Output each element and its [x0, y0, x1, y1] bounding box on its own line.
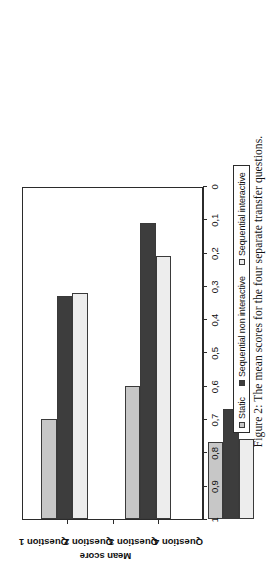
legend-label-static: Static: [237, 397, 247, 419]
y-axis-tick-label: 0,5: [209, 339, 220, 369]
plot-frame: [22, 187, 203, 520]
y-axis-tick-label: 0,6: [209, 372, 220, 402]
y-axis-tick-label: 0,1: [209, 205, 220, 235]
category-label-4: Question 4: [139, 537, 219, 548]
category-tick: [67, 520, 68, 524]
y-axis-tick: [203, 319, 207, 320]
legend-swatch-static: [239, 422, 245, 428]
legend-label-sequential-interactive: Sequential interactive: [237, 172, 247, 256]
bar-2-static: [125, 386, 141, 519]
y-axis-tick: [203, 452, 207, 453]
plot-area: [23, 188, 202, 519]
y-axis-tick-label: 0,8: [209, 438, 220, 468]
y-axis-tick: [203, 253, 207, 254]
category-tick: [158, 520, 159, 524]
y-axis-tick: [203, 419, 207, 420]
legend-swatch-sequential-non-interactive: [239, 380, 245, 386]
bar-2-sequential-non-interactive: [140, 223, 156, 519]
y-axis-tick-label: 0: [209, 172, 220, 202]
y-axis-tick: [203, 186, 207, 187]
legend-item-sequential-non-interactive: Sequential non interactive: [237, 276, 247, 386]
chart-legend: Static Sequential non interactive Sequen…: [233, 165, 250, 433]
legend-item-sequential-interactive: Sequential interactive: [237, 172, 247, 265]
y-axis-tick-label: 0,7: [209, 405, 220, 435]
bar-1-static: [41, 419, 57, 519]
y-axis-tick: [203, 353, 207, 354]
y-axis-tick: [203, 486, 207, 487]
category-tick: [113, 520, 114, 524]
y-axis-tick: [203, 386, 207, 387]
legend-label-sequential-non-interactive: Sequential non interactive: [237, 276, 247, 377]
bar-1-sequential-interactive: [72, 293, 88, 519]
y-axis-tick-label: 1: [209, 505, 220, 535]
bar-1-sequential-non-interactive: [57, 296, 73, 519]
y-axis-tick-label: 0,4: [209, 305, 220, 335]
legend-swatch-sequential-interactive: [239, 259, 245, 265]
y-axis-tick-label: 0,3: [209, 272, 220, 302]
bar-2-sequential-interactive: [156, 256, 172, 519]
y-axis-tick-label: 0,2: [209, 239, 220, 269]
y-axis-tick: [203, 286, 207, 287]
y-axis-title: Mean score: [61, 551, 151, 562]
legend-item-static: Static: [237, 397, 247, 428]
figure-caption: Figure 2: The mean scores for the four s…: [252, 10, 264, 573]
y-axis-tick-label: 0,9: [209, 472, 220, 502]
y-axis-tick: [203, 519, 207, 520]
rotated-page-wrapper: 00,10,20,30,40,50,60,70,80,91Question 1Q…: [0, 0, 275, 583]
figure-2: 00,10,20,30,40,50,60,70,80,91Question 1Q…: [0, 0, 275, 583]
y-axis-tick: [203, 219, 207, 220]
